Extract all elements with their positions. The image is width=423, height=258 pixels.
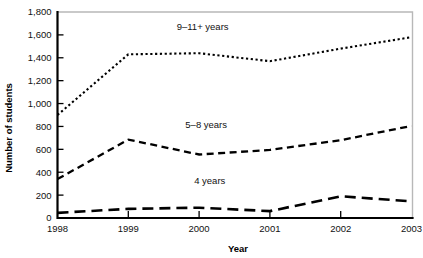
y-tick-label: 1,000 xyxy=(28,98,52,109)
y-tick-label: 1,400 xyxy=(28,52,52,63)
y-tick-label: 400 xyxy=(36,167,52,178)
y-tick-label: 0 xyxy=(46,212,51,223)
chart-container: 02004006008001,0001,2001,4001,6001,800 1… xyxy=(0,0,423,258)
y-tick-label: 1,800 xyxy=(28,6,52,17)
x-tick-label: 1998 xyxy=(47,223,68,234)
x-tick-label: 2002 xyxy=(330,223,351,234)
x-tick-label: 2001 xyxy=(259,223,280,234)
y-tick-label: 1,200 xyxy=(28,75,52,86)
x-tick-label: 1999 xyxy=(118,223,139,234)
series-annotation-0: 9–11+ years xyxy=(177,21,229,32)
y-tick-label: 800 xyxy=(36,121,52,132)
line-chart: 02004006008001,0001,2001,4001,6001,800 1… xyxy=(0,0,423,258)
series-annotation-2: 4 years xyxy=(194,175,225,186)
y-tick-label: 200 xyxy=(36,190,52,201)
y-axis-title: Number of students xyxy=(3,83,14,173)
y-tick-label: 600 xyxy=(36,144,52,155)
x-tick-label: 2000 xyxy=(189,223,210,234)
x-tick-label: 2003 xyxy=(401,223,422,234)
x-axis-title: Year xyxy=(228,243,248,254)
y-tick-label: 1,600 xyxy=(28,29,52,40)
series-annotation-1: 5–8 years xyxy=(185,119,227,130)
